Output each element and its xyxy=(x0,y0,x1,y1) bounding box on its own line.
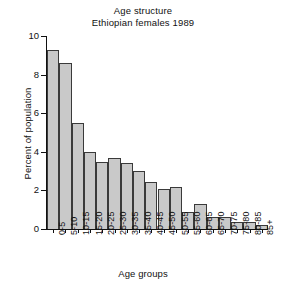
y-tick-label: 10 xyxy=(19,30,39,41)
y-tick-label: 0 xyxy=(19,223,39,234)
bar-series xyxy=(47,36,268,229)
y-tick-mark xyxy=(41,152,46,153)
y-tick-mark xyxy=(41,75,46,76)
x-tick-label: 75-80 xyxy=(241,211,251,235)
x-tick-label: 20-25 xyxy=(106,211,116,235)
x-tick-label: 40-45 xyxy=(155,211,165,235)
x-axis-label: Age groups xyxy=(0,268,286,279)
x-tick-label: 10-15 xyxy=(81,211,91,235)
x-tick-label: 50-55 xyxy=(180,211,190,235)
x-tick-label: 30-35 xyxy=(130,211,140,235)
y-tick-label: 8 xyxy=(19,69,39,80)
x-tick-label: 80-85 xyxy=(253,211,263,235)
x-tick-mark xyxy=(53,229,54,233)
y-tick-label: 2 xyxy=(19,184,39,195)
y-tick-label: 6 xyxy=(19,107,39,118)
bar xyxy=(59,63,71,229)
plot-area: 0246810 0-55-1010-1515-2020-2525-3030-35… xyxy=(46,36,268,230)
x-tick-label: 5-10 xyxy=(69,217,79,235)
y-tick-mark xyxy=(41,36,46,37)
y-tick-mark xyxy=(41,229,46,230)
chart-title-line-1: Age structure xyxy=(0,5,286,17)
x-tick-label: 85+ xyxy=(265,219,275,235)
x-tick-label: 60-65 xyxy=(204,211,214,235)
y-tick-mark xyxy=(41,190,46,191)
x-tick-label: 15-20 xyxy=(94,211,104,235)
x-tick-label: 65-70 xyxy=(216,211,226,235)
chart-title: Age structure Ethiopian females 1989 xyxy=(0,5,286,29)
y-tick-label: 4 xyxy=(19,146,39,157)
y-tick-mark xyxy=(41,113,46,114)
x-tick-label: 35-40 xyxy=(143,211,153,235)
x-tick-label: 55-60 xyxy=(192,211,202,235)
chart-figure: Age structure Ethiopian females 1989 Per… xyxy=(0,0,286,285)
x-tick-label: 25-30 xyxy=(118,211,128,235)
x-tick-label: 45-50 xyxy=(167,211,177,235)
x-tick-label: 70-75 xyxy=(229,211,239,235)
bar xyxy=(47,50,59,229)
chart-title-line-2: Ethiopian females 1989 xyxy=(0,17,286,29)
x-tick-label: 0-5 xyxy=(57,222,67,235)
